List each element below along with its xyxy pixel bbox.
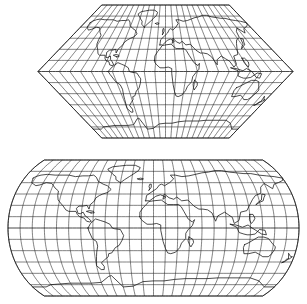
eckert-1-graticule [38,5,293,138]
map-panel-eckert-3 [0,152,307,304]
eckert-1-svg [0,0,307,152]
eckert-3-svg [0,152,307,304]
map-panel-eckert-1 [0,0,307,152]
eckert-3-graticule [8,160,299,296]
projection-figure [0,0,307,304]
